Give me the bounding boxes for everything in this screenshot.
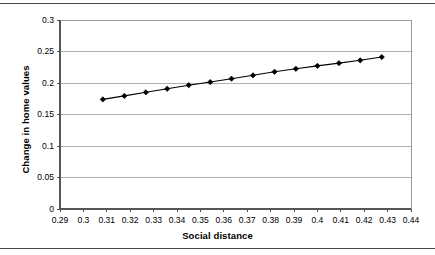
- figure-container: 00.050.10.150.20.250.3 0.290.30.310.320.…: [0, 0, 435, 255]
- x-axis-title: Social distance: [0, 230, 435, 241]
- x-axis-tick-label: 0.44: [394, 215, 428, 225]
- gridlines-group: [60, 20, 411, 178]
- y-axis-title: Change in home values: [20, 40, 31, 200]
- data-series-markers: [100, 54, 384, 102]
- line-chart-plot: [0, 6, 435, 246]
- bottom-divider-rule: [0, 248, 435, 249]
- y-axis-tick-label: 0.3: [20, 15, 54, 25]
- y-axis-tick-label: 0: [20, 204, 54, 214]
- top-divider-rule: [0, 3, 435, 4]
- chart-area: 00.050.10.150.20.250.3 0.290.30.310.320.…: [0, 6, 435, 246]
